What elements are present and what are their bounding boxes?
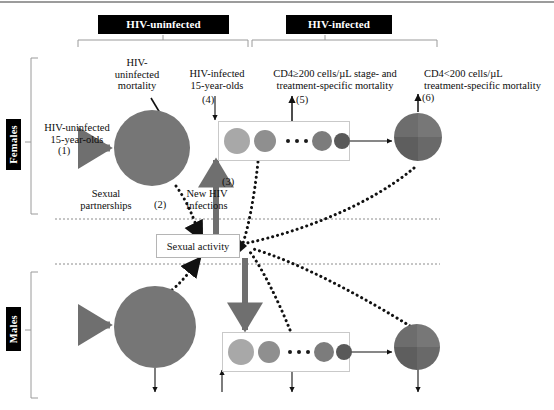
stage-ellipsis-male (288, 350, 310, 354)
flow-number-2: (2) (154, 199, 166, 210)
bracket-hiv-infected (252, 34, 437, 47)
stage-circle-male-3 (314, 342, 334, 362)
side-chip-females: Females (5, 118, 22, 171)
flow-number-5: (5) (296, 94, 308, 105)
dotted-cd4low-to-activity-female (247, 168, 414, 243)
stage-circle-female-3 (312, 131, 332, 151)
label-infected-entrants: HIV-infected 15-year-olds (181, 68, 253, 91)
dotted-partnership-male (172, 258, 200, 290)
dotted-cd4low-to-activity-male (250, 248, 410, 326)
label-cd4-high-mortality: CD4≥200 cells/µL stage- and treatment-sp… (250, 68, 420, 91)
figure-canvas: HIV-uninfected HIV-infected Females Male… (0, 0, 554, 410)
stage-circle-male-4 (336, 344, 352, 360)
dotted-stagebox-to-activity-male (250, 252, 290, 330)
label-cd4-low-mortality: CD4<200 cells/µL treatment-specific mort… (424, 68, 552, 91)
label-uninfected-entrants-female: HIV-uninfected 15-year-olds (38, 122, 116, 145)
sexual-activity-label: Sexual activity (167, 241, 230, 252)
circle-uninfected-female (114, 110, 190, 186)
bracket-hiv-uninfected (78, 34, 248, 47)
flow-number-6: (6) (422, 92, 434, 103)
stage-circle-female-2 (254, 130, 276, 152)
dotted-stagebox-to-activity-female (243, 162, 258, 243)
stage-ellipsis-female (286, 139, 308, 143)
brace-males (25, 272, 38, 398)
flow-number-4: (4) (202, 94, 214, 105)
label-new-hiv-infections-female: New HIV infections (176, 188, 238, 211)
stage-circle-male-1 (228, 339, 254, 365)
circle-uninfected-male (114, 286, 196, 368)
header-chip-hiv-uninfected: HIV-uninfected (97, 14, 230, 35)
side-chip-males-label: Males (8, 315, 19, 343)
stage-circle-female-1 (224, 128, 250, 154)
flow-number-3: (3) (222, 176, 234, 187)
header-chip-hiv-infected: HIV-infected (285, 14, 393, 35)
stage-circle-female-4 (334, 133, 350, 149)
label-uninfected-mortality: HIV- uninfected mortality (100, 57, 174, 92)
stage-circle-male-2 (258, 341, 280, 363)
side-chip-females-label: Females (8, 125, 19, 164)
circle-cd4-low-female (394, 113, 442, 161)
side-chip-males: Males (5, 306, 22, 352)
circle-cd4-low-male (394, 324, 440, 370)
sexual-activity-box[interactable]: Sexual activity (156, 234, 240, 258)
flow-number-1: (1) (58, 145, 70, 156)
label-sexual-partnerships-female: Sexual partnerships (58, 188, 154, 211)
brace-females (25, 58, 38, 214)
